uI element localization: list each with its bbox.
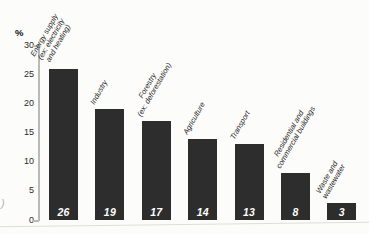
y-tick-label: 20 xyxy=(8,98,34,109)
bar-category-label: Agriculture xyxy=(182,100,207,135)
bar: 13 xyxy=(235,144,264,220)
bar-category-label: Residential and commercial buildings xyxy=(268,102,317,171)
bar-value-label: 19 xyxy=(95,206,124,218)
bar: 26 xyxy=(49,69,78,220)
bar-category-label: Transport xyxy=(229,110,252,141)
bar-value-label: 8 xyxy=(281,206,310,218)
bar: 8 xyxy=(281,173,310,220)
x-axis-baseline xyxy=(0,222,369,228)
y-tick-label: 5 xyxy=(8,185,34,196)
bar-value-label: 13 xyxy=(235,206,264,218)
scan-artifact-mark: ) xyxy=(1,197,5,209)
bar: 17 xyxy=(142,121,171,220)
y-tick-label: 15 xyxy=(8,127,34,138)
y-axis-line xyxy=(38,44,40,221)
bar-value-label: 3 xyxy=(327,206,356,218)
bar: 14 xyxy=(188,139,217,220)
y-tick-label: 25 xyxy=(8,69,34,80)
bar-value-label: 17 xyxy=(142,206,171,218)
y-tick-label: 0 xyxy=(8,215,34,226)
bar: 19 xyxy=(95,109,124,220)
bar-category-label: Waste and wastewater xyxy=(315,159,348,200)
y-tick-label: 10 xyxy=(8,156,34,167)
bar-value-label: 14 xyxy=(188,206,217,218)
bar: 3 xyxy=(327,203,356,220)
bar-value-label: 26 xyxy=(49,206,78,218)
bar-chart: % ) 30252015105026Energy supply (ex: ele… xyxy=(0,0,369,234)
y-tick-mark xyxy=(33,220,39,222)
bar-category-label: Forestry (ex: deforestation) xyxy=(129,58,173,118)
y-axis-unit-label: % xyxy=(15,27,23,38)
bar-category-label: Energy supply (ex: electricity and heati… xyxy=(29,13,74,66)
bar-category-label: Industry xyxy=(89,79,109,106)
